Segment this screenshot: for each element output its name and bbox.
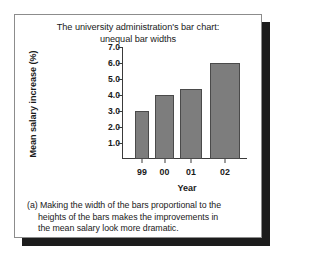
x-tick-label: 01 xyxy=(186,167,196,177)
x-tick-mark xyxy=(164,159,165,163)
x-axis-ticks: 99 00 01 02 xyxy=(122,159,252,185)
bar-99 xyxy=(135,111,149,159)
figure-caption: (a) Making the width of the bars proport… xyxy=(27,200,253,235)
bar-01 xyxy=(180,89,202,159)
caption-line-3: the mean salary look more dramatic. xyxy=(27,223,253,235)
y-tick-label: 5.0 xyxy=(93,75,120,84)
y-tick-label: 3.0 xyxy=(93,107,120,116)
x-axis-label: Year xyxy=(122,183,252,193)
x-tick-label: 02 xyxy=(220,167,230,177)
y-tick-label: 7.0 xyxy=(93,43,120,52)
chart-title: The university administration's bar char… xyxy=(15,15,261,45)
chart-title-line-1: The university administration's bar char… xyxy=(15,21,261,33)
bar-00 xyxy=(155,95,174,159)
y-tick-label: 4.0 xyxy=(93,91,120,100)
chart-axes xyxy=(122,47,252,163)
bar-02 xyxy=(210,63,240,159)
y-tick-label: 1.0 xyxy=(93,139,120,148)
x-tick-mark xyxy=(191,159,192,163)
x-tick-mark xyxy=(225,159,226,163)
figure-card: The university administration's bar char… xyxy=(14,14,262,238)
chart-title-line-2: unequal bar widths xyxy=(15,33,261,45)
caption-line-2: heights of the bars makes the improvemen… xyxy=(27,212,253,224)
x-tick-mark xyxy=(142,159,143,163)
y-tick-label: 6.0 xyxy=(93,59,120,68)
y-tick-label: 2.0 xyxy=(93,123,120,132)
x-tick-label: 00 xyxy=(160,167,170,177)
plot-region: Mean salary increase (%) 7.0 6.0 5.0 4.0… xyxy=(15,47,263,195)
y-axis-tick-labels: 7.0 6.0 5.0 4.0 3.0 2.0 1.0 xyxy=(93,47,120,159)
x-tick-label: 99 xyxy=(137,167,147,177)
bar-series xyxy=(122,47,252,159)
y-axis-label: Mean salary increase (%) xyxy=(28,44,38,164)
caption-line-1: (a) Making the width of the bars proport… xyxy=(27,200,253,212)
